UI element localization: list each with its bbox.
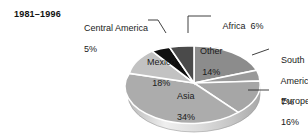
label-other-text: Other <box>200 46 223 56</box>
label-asia-value: 34% <box>177 112 195 122</box>
label-mexico-text: Mexico <box>147 57 176 67</box>
label-south-america-text-1: South <box>281 55 305 65</box>
label-asia-text: Asia <box>177 91 195 101</box>
leader-line-africa <box>188 16 211 33</box>
leader-line-central-america <box>148 20 166 33</box>
label-central-america-text: Central America <box>84 23 148 33</box>
label-europe-value: 16% <box>281 117 299 127</box>
label-africa-text: Africa 6% <box>223 21 264 31</box>
leader-line-south-america <box>252 49 269 55</box>
label-other-value: 14% <box>202 67 220 77</box>
label-central-america-value: 5% <box>84 44 97 54</box>
label-europe: Europe 16% <box>271 85 308 138</box>
label-europe-text: Europe <box>281 96 308 106</box>
chart-root: 1981–1996 <box>0 0 308 139</box>
label-asia: Asia 34% <box>167 80 195 133</box>
label-south-america-text-2: America <box>281 76 308 86</box>
